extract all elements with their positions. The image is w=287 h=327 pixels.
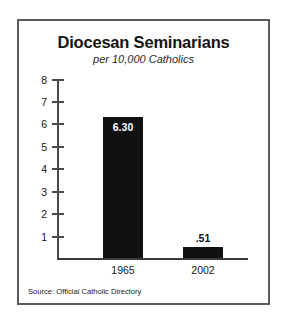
bar-value-2002: .51 [183, 233, 223, 244]
y-tick-mark-8 [52, 79, 64, 81]
plot-area: 1 2 3 4 5 6 7 8 6.30 .51 1965 2002 [19, 21, 268, 303]
y-tick-label-4: 4 [27, 164, 47, 174]
y-tick-label-1: 1 [27, 232, 47, 242]
y-tick-label-3: 3 [27, 187, 47, 197]
y-tick-mark-4 [52, 168, 64, 170]
y-tick-label-2: 2 [27, 209, 47, 219]
y-tick-mark-2 [52, 213, 64, 215]
y-tick-mark-5 [52, 146, 64, 148]
y-tick-mark-1 [52, 236, 64, 238]
bar-value-1965: 6.30 [103, 122, 143, 133]
x-category-label-2002: 2002 [173, 264, 233, 276]
chart-figure: Diocesan Seminarians per 10,000 Catholic… [0, 0, 287, 327]
bar-2002 [183, 247, 223, 258]
bar-1965 [103, 117, 143, 258]
y-tick-mark-6 [52, 123, 64, 125]
y-tick-label-8: 8 [27, 75, 47, 85]
y-tick-mark-3 [52, 191, 64, 193]
x-axis-baseline [57, 258, 248, 260]
source-note: Source: Official Catholic Directory [28, 287, 141, 296]
y-tick-label-7: 7 [27, 97, 47, 107]
y-tick-label-5: 5 [27, 142, 47, 152]
chart-frame: Diocesan Seminarians per 10,000 Catholic… [17, 19, 270, 305]
y-tick-mark-7 [52, 101, 64, 103]
x-category-label-1965: 1965 [93, 264, 153, 276]
y-tick-label-6: 6 [27, 119, 47, 129]
